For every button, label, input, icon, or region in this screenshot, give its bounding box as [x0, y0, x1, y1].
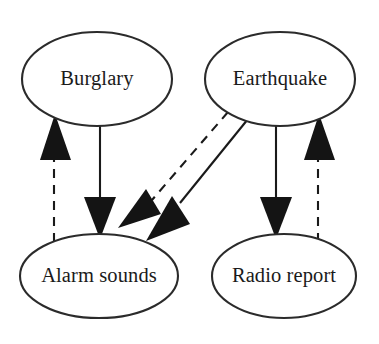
- node-radio-report-label: Radio report: [232, 264, 336, 287]
- edge-burglary-to-alarm: [84, 126, 116, 239]
- diagram-svg: Burglary Earthquake Alarm sounds Radio r…: [0, 0, 379, 344]
- node-alarm-sounds[interactable]: Alarm sounds: [20, 234, 178, 318]
- node-burglary[interactable]: Burglary: [22, 32, 172, 126]
- edge-earthquake-to-alarm-dashed-line: [152, 112, 228, 200]
- node-alarm-sounds-label: Alarm sounds: [41, 264, 157, 286]
- node-radio-report[interactable]: Radio report: [212, 234, 356, 318]
- edge-alarm-to-burglary: [40, 114, 71, 242]
- edge-earthquake-to-alarm-solid-line: [180, 119, 248, 203]
- node-earthquake[interactable]: Earthquake: [205, 32, 355, 126]
- diagram-canvas: Burglary Earthquake Alarm sounds Radio r…: [0, 0, 379, 344]
- edge-earthquake-to-alarm-solid: [146, 119, 248, 241]
- edge-earthquake-to-radio: [260, 126, 292, 239]
- edge-burglary-to-alarm-arrowhead: [84, 197, 116, 239]
- node-burglary-label: Burglary: [60, 67, 134, 90]
- edge-radio-to-earthquake: [304, 114, 335, 242]
- node-earthquake-label: Earthquake: [233, 67, 327, 90]
- edge-earthquake-to-alarm-dashed-arrowhead: [118, 189, 161, 228]
- edge-earthquake-to-radio-arrowhead: [260, 197, 292, 239]
